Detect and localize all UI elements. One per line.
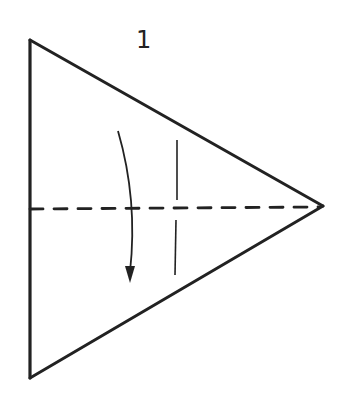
diagram-canvas — [0, 0, 353, 398]
center-fold-line — [30, 207, 320, 209]
origami-diagram: 1 — [0, 0, 353, 398]
